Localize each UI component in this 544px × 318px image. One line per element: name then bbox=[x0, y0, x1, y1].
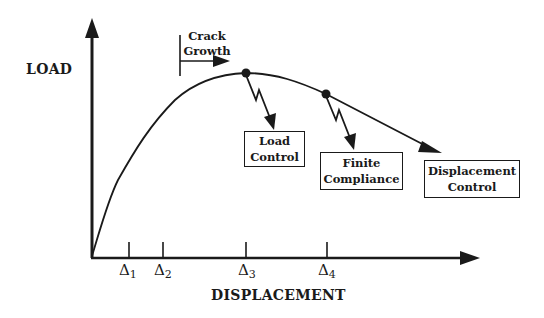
x-axis bbox=[91, 242, 480, 265]
y-axis bbox=[85, 18, 99, 258]
load-control-line2: Control bbox=[245, 149, 304, 165]
x-axis-arrowhead-icon bbox=[460, 251, 480, 265]
displacement-control-box: Displacement Control bbox=[424, 160, 520, 198]
tick-label-delta-3: Δ3 bbox=[238, 261, 256, 281]
finite-compliance-box: Finite Compliance bbox=[320, 152, 403, 190]
crack-growth-line1: Crack bbox=[182, 29, 232, 44]
y-axis-label: LOAD bbox=[26, 61, 72, 77]
y-axis-arrowhead-icon bbox=[85, 18, 99, 38]
curve-arrowhead-icon bbox=[418, 141, 442, 153]
x-axis-label: DISPLACEMENT bbox=[211, 287, 346, 303]
finite-compliance-line1: Finite bbox=[321, 155, 402, 171]
load-control-line1: Load bbox=[245, 133, 304, 149]
load-control-box: Load Control bbox=[244, 131, 305, 167]
finite-compliance-line2: Compliance bbox=[321, 171, 402, 187]
crack-growth-label: Crack Growth bbox=[182, 29, 232, 59]
load-control-zigzag-arrow-icon bbox=[246, 75, 276, 130]
tick-label-delta-1: Δ1 bbox=[119, 261, 137, 281]
tick-label-delta-2: Δ2 bbox=[154, 261, 172, 281]
finite-compliance-zigzag-arrow-icon bbox=[326, 96, 356, 150]
displacement-control-line1: Displacement bbox=[425, 163, 519, 179]
crack-growth-line2: Growth bbox=[182, 44, 232, 59]
displacement-control-line2: Control bbox=[425, 179, 519, 195]
tick-label-delta-4: Δ4 bbox=[318, 261, 336, 281]
